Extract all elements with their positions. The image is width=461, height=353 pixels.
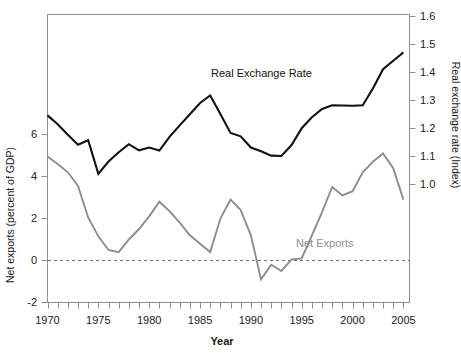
y-tick-label-left-1: 0 [31,254,37,266]
x-tick-label-5: 1995 [289,314,313,326]
series-annotation-real-exchange-rate: Real Exchange Rate [211,67,312,79]
x-tick-label-7: 2005 [391,314,415,326]
line-chart-canvas: -2 0 2 4 6 1.0 1.1 1.2 1.3 1.4 1.5 1.6 [0,0,461,353]
x-axis-title: Year [210,335,234,347]
y-axis-title-left: Net exports (percent of GDP) [4,147,16,283]
y-tick-label-left-3: 4 [31,170,37,182]
y-tick-label-right-1: 1.1 [420,150,435,162]
y-axis-title-right: Real exchange rate (Index) [450,62,461,189]
y-tick-label-right-2: 1.2 [420,122,435,134]
y-tick-label-left-2: 2 [31,212,37,224]
y-tick-label-left-4: 6 [31,128,37,140]
x-tick-label-4: 1990 [239,314,263,326]
y-tick-label-right-3: 1.3 [420,94,435,106]
x-tick-label-0: 1970 [35,314,59,326]
x-tick-label-3: 1985 [188,314,212,326]
y-tick-label-right-6: 1.6 [420,10,435,22]
y-tick-label-right-5: 1.5 [420,38,435,50]
x-tick-label-2: 1980 [137,314,161,326]
chart-figure: -2 0 2 4 6 1.0 1.1 1.2 1.3 1.4 1.5 1.6 [0,0,461,353]
chart-background [0,0,461,353]
y-tick-label-right-4: 1.4 [420,66,435,78]
y-tick-label-right-0: 1.0 [420,178,435,190]
x-tick-label-1: 1975 [86,314,110,326]
x-tick-label-6: 2000 [340,314,364,326]
y-tick-label-left-0: -2 [27,296,37,308]
series-annotation-net-exports: Net Exports [296,237,354,249]
